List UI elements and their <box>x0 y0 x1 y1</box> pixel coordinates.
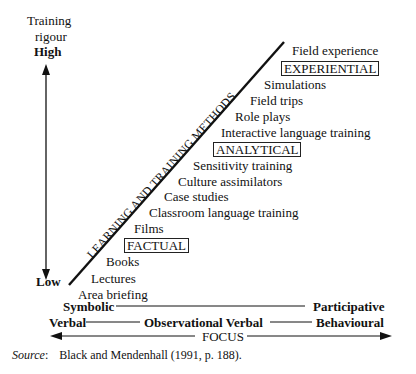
method-interactive-language-training: Interactive language training <box>221 126 370 140</box>
source-label: Source <box>12 348 45 362</box>
method-sensitivity-training: Sensitivity training <box>193 159 292 173</box>
method-simulations: Simulations <box>264 78 326 92</box>
method-classroom-language-training: Classroom language training <box>149 206 298 220</box>
x-axis-verbal: Verbal <box>49 316 86 330</box>
x-axis-symbolic: Symbolic <box>63 300 114 314</box>
method-case-studies: Case studies <box>164 190 229 204</box>
y-axis-low-label: Low <box>36 275 61 289</box>
y-axis-high-label: High <box>34 45 61 59</box>
source-colon: : <box>45 348 48 362</box>
category-analytical: ANALYTICAL <box>213 142 301 157</box>
method-role-plays: Role plays <box>235 110 290 124</box>
method-field-trips: Field trips <box>250 94 303 108</box>
x-axis-behavioural: Behavioural <box>316 316 384 330</box>
y-axis-title-line1: Training <box>27 14 71 28</box>
method-culture-assimilators: Culture assimilators <box>178 175 282 189</box>
method-field-experience: Field experience <box>292 44 378 58</box>
x-axis-observational-verbal: Observational Verbal <box>144 316 263 330</box>
source-citation: Source: Black and Mendenhall (1991, p. 1… <box>12 348 242 362</box>
method-books: Books <box>106 255 139 269</box>
category-experiential: EXPERIENTIAL <box>281 61 379 76</box>
category-factual: FACTUAL <box>124 238 189 253</box>
source-text: Black and Mendenhall (1991, p. 188). <box>59 348 242 362</box>
method-films: Films <box>134 222 164 236</box>
y-axis-title-line2: rigour <box>35 30 67 44</box>
x-axis-focus-label: FOCUS <box>202 330 244 344</box>
method-lectures: Lectures <box>91 272 136 286</box>
x-axis-participative: Participative <box>313 300 384 314</box>
